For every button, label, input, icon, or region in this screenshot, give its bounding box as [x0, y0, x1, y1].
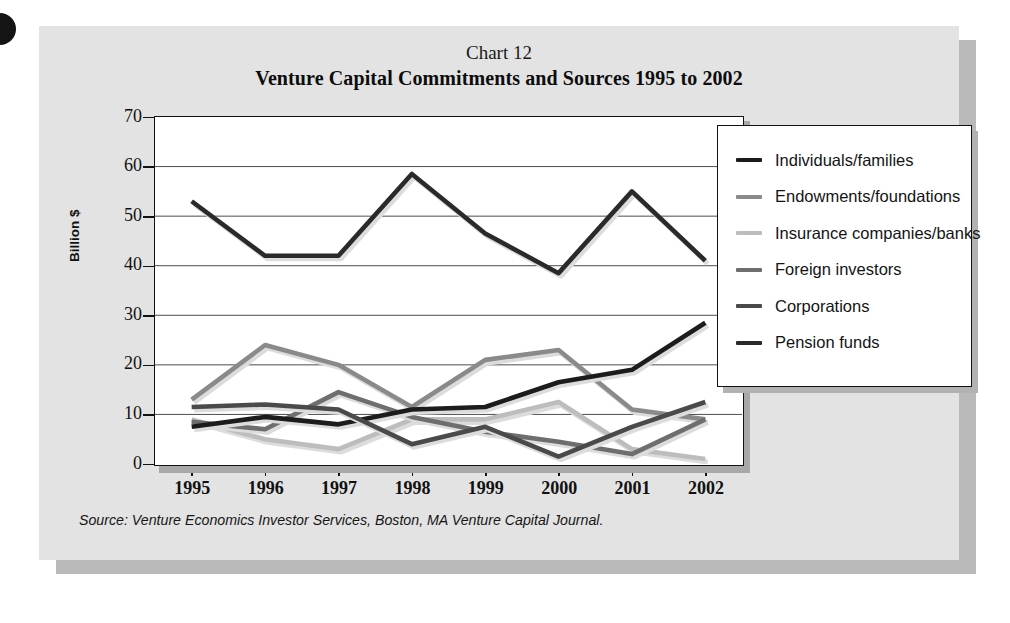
y-tick-mark	[143, 266, 154, 268]
source-note: Source: Venture Economics Investor Servi…	[79, 512, 603, 528]
legend-item[interactable]: Endowments/foundations	[736, 179, 971, 216]
legend-item[interactable]: Foreign investors	[736, 252, 971, 289]
x-tick-label: 1999	[455, 478, 517, 499]
x-tick-label: 1996	[235, 478, 297, 499]
y-tick-mark	[143, 414, 154, 416]
legend-swatch-icon	[736, 268, 762, 272]
y-tick-label: 40	[96, 254, 142, 275]
legend-item[interactable]: Insurance companies/banks	[736, 215, 971, 252]
x-tick-label: 1998	[381, 478, 443, 499]
y-tick-label: 70	[96, 106, 142, 127]
y-tick-label: 20	[96, 353, 142, 374]
x-tick-label: 1995	[161, 478, 223, 499]
legend-item-label: Pension funds	[775, 333, 880, 352]
chart-legend: Individuals/familiesEndowments/foundatio…	[717, 125, 972, 387]
legend-item-label: Foreign investors	[775, 260, 902, 279]
y-axis-label: Billion $	[67, 209, 82, 262]
x-tick-label: 1997	[308, 478, 370, 499]
legend-swatch-icon	[736, 341, 762, 345]
x-tick-label: 2001	[602, 478, 664, 499]
legend-item-label: Endowments/foundations	[775, 187, 960, 206]
page-corner-dot	[0, 13, 16, 45]
y-tick-mark	[143, 166, 154, 168]
legend-swatch-icon	[736, 231, 762, 235]
x-tick-label: 2000	[528, 478, 590, 499]
y-tick-mark	[143, 216, 154, 218]
legend-swatch-icon	[736, 195, 762, 199]
y-tick-mark	[143, 365, 154, 367]
legend-item-label: Corporations	[775, 297, 869, 316]
y-tick-label: 10	[96, 403, 142, 424]
y-tick-mark	[143, 464, 154, 466]
y-tick-label: 30	[96, 304, 142, 325]
legend-item[interactable]: Individuals/families	[736, 142, 971, 179]
legend-swatch-icon	[736, 158, 762, 162]
legend-item[interactable]: Pension funds	[736, 325, 971, 362]
y-tick-label: 50	[96, 205, 142, 226]
plot-area	[154, 116, 744, 466]
legend-item[interactable]: Corporations	[736, 288, 971, 325]
legend-item-label: Individuals/families	[775, 151, 913, 170]
legend-swatch-icon	[736, 304, 762, 308]
series-canvas	[155, 117, 742, 464]
y-tick-mark	[143, 117, 154, 119]
chart-panel: Chart 12 Venture Capital Commitments and…	[39, 26, 959, 560]
y-tick-mark	[143, 315, 154, 317]
legend-item-label: Insurance companies/banks	[775, 224, 980, 243]
figure-page: Chart 12 Venture Capital Commitments and…	[0, 0, 1010, 623]
y-tick-label: 60	[96, 155, 142, 176]
x-tick-label: 2002	[675, 478, 737, 499]
y-tick-label: 0	[96, 453, 142, 474]
